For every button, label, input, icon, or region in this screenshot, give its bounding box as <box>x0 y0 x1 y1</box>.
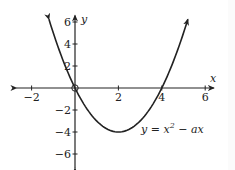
y-tick-label: −6 <box>55 148 71 161</box>
parabola-graph: −2246642−2−4−6 x y y = x2 − ax <box>0 0 235 170</box>
y-tick-label: 6 <box>64 16 71 29</box>
y-tick-label: −2 <box>55 104 71 117</box>
x-tick-label: −2 <box>23 91 39 104</box>
equation-label: y = x2 − ax <box>140 121 205 136</box>
x-tick-label: 2 <box>115 91 122 104</box>
x-axis-label: x <box>210 72 217 85</box>
y-tick-label: −4 <box>55 126 71 139</box>
y-axis-label: y <box>80 13 88 26</box>
x-tick-label: 6 <box>202 91 209 104</box>
y-tick-label: 4 <box>64 38 71 51</box>
